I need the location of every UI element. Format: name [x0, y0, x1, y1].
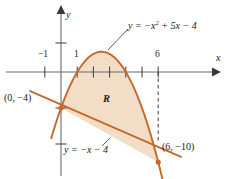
x-axis-arrowhead	[212, 68, 221, 77]
parabola-eq-prefix: y = −x	[128, 20, 155, 31]
region-label: R	[103, 94, 110, 105]
y-axis-label: y	[66, 10, 70, 20]
point-label-left: (0, −4)	[4, 93, 31, 103]
parabola-eq-suffix: + 5x − 4	[159, 20, 197, 31]
parabola-equation-label: y = −x2 + 5x − 4	[128, 21, 197, 31]
x-tick-label-1: 1	[74, 50, 79, 60]
plot-canvas	[0, 0, 232, 179]
x-tick-label-6: 6	[155, 50, 160, 60]
y-axis-arrowhead	[57, 5, 66, 14]
point-0-minus4	[58, 105, 63, 110]
point-label-right: (6, −10)	[162, 142, 194, 152]
parabola-label-leader	[108, 29, 128, 50]
graph-figure: y x −1 1 6 y = −x2 + 5x − 4 y = −x − 4 (…	[0, 0, 232, 179]
x-axis-label: x	[216, 53, 220, 63]
point-6-minus10	[156, 159, 161, 164]
line-equation-label: y = −x − 4	[64, 145, 108, 155]
x-tick-label-neg1: −1	[38, 50, 48, 60]
